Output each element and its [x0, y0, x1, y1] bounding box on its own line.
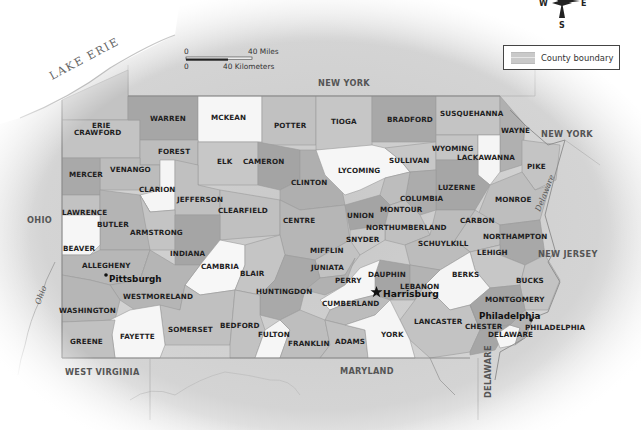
label-clarion: CLARION — [139, 185, 175, 194]
label-mercer: MERCER — [69, 170, 103, 179]
label-centre: CENTRE — [283, 216, 315, 225]
label-snyder: SNYDER — [346, 235, 380, 244]
label-delaware-state: DELAWARE — [483, 345, 493, 398]
label-tioga: TIOGA — [331, 117, 357, 126]
label-jefferson: JEFFERSON — [176, 195, 223, 204]
label-adams: ADAMS — [335, 337, 365, 346]
label-harrisburg: Harrisburg — [383, 288, 439, 299]
label-new-york-north: NEW YORK — [318, 78, 370, 88]
label-westmoreland: WESTMORELAND — [123, 292, 193, 301]
pittsburgh-dot — [104, 273, 108, 277]
label-potter: POTTER — [274, 121, 307, 130]
label-northumberland: NORTHUMBERLAND — [366, 223, 447, 232]
label-bucks: BUCKS — [516, 276, 544, 285]
map-legend: County boundary — [503, 45, 620, 70]
label-warren: WARREN — [150, 114, 186, 123]
scale-km-zero: 0 — [184, 62, 189, 71]
label-pittsburgh: Pittsburgh — [109, 274, 162, 284]
scale-miles-zero: 0 — [184, 47, 189, 56]
compass-west: W — [539, 0, 548, 8]
label-philadelphia-county: PHILADELPHIA — [525, 323, 586, 332]
label-sullivan: SULLIVAN — [389, 156, 429, 165]
label-mifflin-visible: MIFFLIN — [310, 246, 344, 255]
label-lycoming: LYCOMING — [338, 166, 380, 175]
label-new-york-east: NEW YORK — [541, 129, 593, 139]
label-fulton: FULTON — [258, 330, 290, 339]
label-washington: WASHINGTON — [59, 306, 116, 315]
label-clearfield: CLEARFIELD — [218, 206, 268, 215]
label-berks: BERKS — [452, 270, 479, 279]
label-beaver: BEAVER — [63, 244, 95, 253]
label-butler: BUTLER — [97, 220, 129, 229]
label-carbon: CARBON — [460, 216, 495, 225]
label-bradford: BRADFORD — [387, 115, 433, 124]
label-crawford: CRAWFORD — [74, 128, 121, 137]
label-franklin: FRANKLIN — [288, 339, 330, 348]
county-boundary-swatch — [511, 52, 535, 64]
label-venango: VENANGO — [110, 165, 151, 174]
label-northampton: NORTHAMPTON — [483, 232, 547, 241]
label-indiana: INDIANA — [170, 249, 206, 258]
label-elk: ELK — [217, 157, 233, 166]
scale-miles-label: 40 Miles — [248, 47, 279, 56]
label-schuylkill: SCHUYLKILL — [418, 239, 469, 248]
label-wyoming: WYOMING — [432, 144, 473, 153]
label-pike: PIKE — [527, 162, 546, 171]
label-ohio: OHIO — [27, 215, 52, 225]
label-maryland: MARYLAND — [340, 366, 394, 376]
label-luzerne: LUZERNE — [438, 183, 475, 192]
label-lawrence: LAWRENCE — [62, 208, 107, 217]
label-somerset: SOMERSET — [168, 325, 213, 334]
label-mckean: MCKEAN — [211, 113, 246, 122]
label-blair: BLAIR — [240, 269, 265, 278]
label-new-jersey: NEW JERSEY — [538, 249, 598, 259]
label-montour: MONTOUR — [380, 205, 423, 214]
label-cameron: CAMERON — [243, 157, 284, 166]
label-wayne: WAYNE — [501, 126, 530, 135]
legend-label: County boundary — [541, 53, 613, 63]
label-monroe: MONROE — [495, 195, 531, 204]
label-philadelphia: Philadelphia — [479, 311, 541, 321]
label-clinton: CLINTON — [291, 178, 327, 187]
label-juniata: JUNIATA — [310, 263, 344, 272]
label-fayette: FAYETTE — [120, 332, 155, 341]
label-cambria: CAMBRIA — [201, 262, 239, 271]
label-greene: GREENE — [70, 337, 103, 346]
label-york: YORK — [380, 330, 404, 339]
label-cumberland: CUMBERLAND — [322, 299, 379, 308]
label-union: UNION — [347, 211, 374, 220]
label-montgomery: MONTGOMERY — [485, 295, 545, 304]
compass-east: E — [581, 0, 586, 8]
label-susquehanna: SUSQUEHANNA — [440, 109, 504, 118]
label-armstrong: ARMSTRONG — [130, 228, 183, 237]
label-dauphin: DAUPHIN — [368, 270, 406, 279]
label-west-virginia: WEST VIRGINIA — [65, 367, 140, 377]
label-forest: FOREST — [158, 147, 190, 156]
label-lackawanna: LACKAWANNA — [457, 153, 515, 162]
compass-south: S — [559, 21, 565, 30]
scale-km-label: 40 Kilometers — [223, 62, 274, 71]
label-lehigh: LEHIGH — [477, 248, 508, 257]
label-lancaster: LANCASTER — [414, 317, 463, 326]
label-columbia: COLUMBIA — [400, 194, 444, 203]
label-perry: PERRY — [335, 276, 362, 285]
label-allegheny: ALLEGHENY — [82, 261, 131, 270]
label-huntingdon: HUNTINGDON — [256, 287, 312, 296]
label-bedford: BEDFORD — [220, 321, 260, 330]
